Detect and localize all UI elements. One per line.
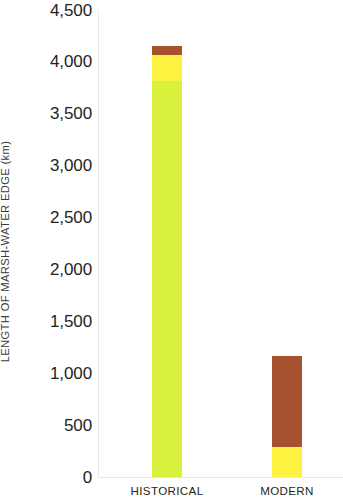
- category-label-modern: MODERN: [227, 484, 343, 497]
- bar-segment-brown: [152, 46, 182, 54]
- y-tick-4500: 4,500: [36, 2, 92, 19]
- y-tick-1500: 1,500: [36, 313, 92, 330]
- bar-segment-yellow: [272, 447, 302, 477]
- x-axis-category-labels: HISTORICAL MODERN: [98, 484, 343, 503]
- bar-segment-yellow-green: [152, 81, 182, 477]
- x-axis-line: [98, 477, 343, 478]
- y-axis-tick-labels: 4,500 4,000 3,500 3,000 2,500 2,000 1,50…: [34, 0, 92, 503]
- y-tick-500: 500: [36, 417, 92, 434]
- bar-segment-yellow: [152, 55, 182, 81]
- bar-modern[interactable]: [272, 356, 302, 477]
- category-label-historical: HISTORICAL: [107, 484, 227, 497]
- y-tick-3000: 3,000: [36, 157, 92, 174]
- y-tick-1000: 1,000: [36, 365, 92, 382]
- y-axis-title-text: LENGTH OF MARSH-WATER EDGE (km): [0, 141, 11, 363]
- y-axis-title: LENGTH OF MARSH-WATER EDGE (km): [0, 0, 34, 503]
- y-tick-2000: 2,000: [36, 261, 92, 278]
- y-tick-3500: 3,500: [36, 105, 92, 122]
- plot-area: [98, 10, 343, 478]
- chart-container: LENGTH OF MARSH-WATER EDGE (km) 4,500 4,…: [0, 0, 343, 503]
- y-tick-4000: 4,000: [36, 53, 92, 70]
- y-tick-0: 0: [36, 469, 92, 486]
- y-axis-line: [98, 10, 99, 478]
- y-tick-2500: 2,500: [36, 209, 92, 226]
- bar-historical[interactable]: [152, 46, 182, 477]
- bar-segment-brown: [272, 356, 302, 447]
